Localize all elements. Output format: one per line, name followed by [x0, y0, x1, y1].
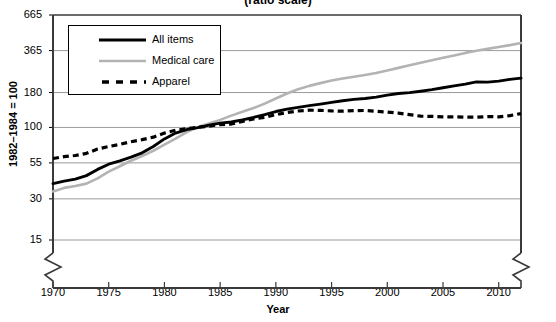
legend-label-all-items: All items: [152, 33, 194, 45]
legend-swatch-apparel: [74, 76, 148, 88]
legend-label-medical-care: Medical care: [152, 54, 214, 66]
legend-swatch-medical-care: [74, 55, 148, 67]
legend-swatch-all-items: [74, 34, 148, 46]
series-line-apparel: [53, 110, 521, 158]
y-axis-break-right: [513, 253, 529, 288]
cpi-ratio-scale-chart: (ratio scale) 1982–1984 = 100 Year 665 3…: [0, 0, 556, 322]
legend-item-all-items: All items: [74, 34, 220, 48]
legend-item-medical-care: Medical care: [74, 55, 220, 69]
legend: All items Medical care Apparel: [68, 25, 221, 95]
legend-item-apparel: Apparel: [74, 76, 220, 90]
legend-label-apparel: Apparel: [152, 75, 190, 87]
